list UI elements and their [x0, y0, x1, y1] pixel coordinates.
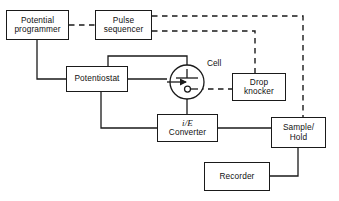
node-ie-converter[interactable]: i/E Converter — [157, 114, 218, 142]
node-recorder[interactable]: Recorder — [204, 162, 270, 191]
cell-label: Cell — [207, 58, 221, 68]
node-potential-programmer[interactable]: Potential programmer — [6, 10, 69, 40]
cell-symbol — [167, 65, 204, 99]
node-drop-knocker[interactable]: Drop knocker — [232, 73, 286, 101]
node-potentiostat-label: Potentiostat — [74, 74, 119, 83]
node-pulse-sequencer-label: Pulse sequencer — [104, 16, 144, 35]
wire-pulse-sequencer-to-drop-knocker-dashed — [152, 31, 255, 73]
cell-reference-electrode-circle — [185, 86, 191, 92]
wire-sample-hold-to-recorder — [270, 148, 298, 176]
node-potentiostat[interactable]: Potentiostat — [66, 66, 128, 92]
node-potential-programmer-label: Potential programmer — [14, 16, 60, 35]
node-ie-converter-label: i/E Converter — [169, 118, 206, 137]
node-sample-hold-label: Sample/ Hold — [283, 123, 314, 142]
wire-programmer-to-potentiostat — [37, 40, 66, 79]
node-drop-knocker-label: Drop knocker — [244, 78, 274, 97]
node-pulse-sequencer[interactable]: Pulse sequencer — [95, 10, 152, 40]
wire-potentiostat-to-ie-converter — [101, 92, 157, 128]
node-recorder-label: Recorder — [220, 172, 255, 181]
block-diagram: Potential programmer Pulse sequencer Pot… — [0, 0, 339, 201]
node-sample-hold[interactable]: Sample/ Hold — [271, 117, 326, 148]
